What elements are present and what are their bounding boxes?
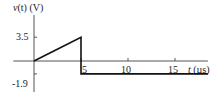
x-tick-label-5: 5 [82,65,87,75]
y-tick-label-3.5: 3.5 [16,32,29,42]
y-axis-label-arg: (t) [17,2,26,13]
x-tick-label-15: 15 [168,65,178,75]
x-axis-label: t (µs) [188,65,210,75]
x-axis-label-unit: (µs) [191,64,210,75]
plot-area [0,0,222,92]
y-axis-label: v(t) (V) [13,3,43,13]
y-axis-label-unit: (V) [27,2,43,13]
y-tick-label-neg-1.9: -1.9 [12,79,28,89]
ticks [34,37,175,74]
x-tick-label-10: 10 [121,65,131,75]
voltage-waveform-chart: v(t) (V) 3.5 -1.9 5 10 15 t (µs) [0,0,222,92]
axes [13,15,208,92]
